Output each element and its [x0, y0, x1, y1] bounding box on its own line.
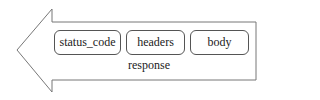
field-headers: headers: [126, 30, 185, 55]
field-status-code: status_code: [54, 30, 121, 55]
field-body: body: [190, 30, 249, 55]
field-label: headers: [137, 35, 174, 50]
field-label: body: [208, 35, 232, 50]
field-label: status_code: [60, 35, 116, 50]
arrow-label: response: [119, 58, 179, 73]
